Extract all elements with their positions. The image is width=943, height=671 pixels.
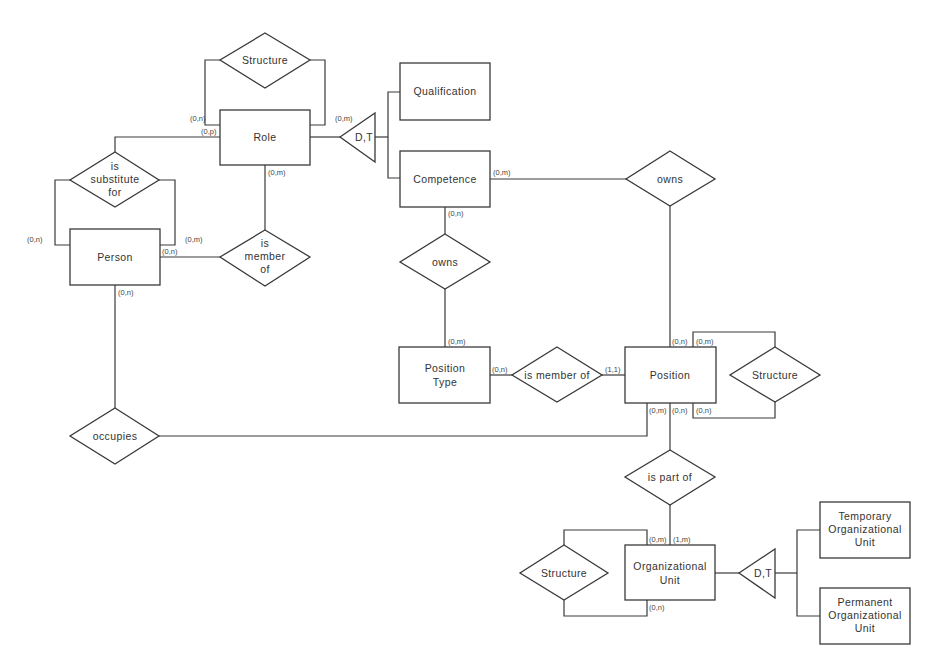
generalization-label: D,T (754, 567, 772, 579)
cardinality: (0,m) (649, 406, 667, 415)
relationship-label: owns (657, 173, 683, 185)
cardinality: (0,n) (448, 209, 464, 218)
relationship-owns-competence-position-type[interactable]: owns (400, 234, 490, 289)
entity-label: Temporary (838, 510, 892, 522)
relationship-label: of (260, 263, 270, 275)
entity-label: Organizational (828, 523, 901, 535)
entity-label: Permanent (838, 596, 893, 608)
cardinality: (0,m) (268, 168, 286, 177)
cardinality: (0,p) (201, 127, 217, 136)
relationship-occupies[interactable]: occupies (70, 408, 159, 464)
cardinality: (0,n) (190, 114, 206, 123)
entity-label: Role (253, 131, 276, 143)
cardinality: (0,m) (335, 114, 353, 123)
entity-role[interactable]: Role (220, 110, 310, 165)
entity-permanent-organizational-unit[interactable]: Permanent Organizational Unit (820, 588, 910, 644)
relationship-position-structure[interactable]: Structure (730, 347, 820, 402)
relationship-is-substitute-for[interactable]: is substitute for (70, 152, 159, 207)
cardinality: (0,n) (696, 406, 712, 415)
entity-label: Type (433, 376, 457, 388)
entity-label: Competence (413, 173, 477, 185)
generalization-label: D,T (355, 131, 373, 143)
entity-competence[interactable]: Competence (400, 151, 490, 207)
cardinality: (0,n) (492, 365, 508, 374)
entity-label: Organizational (633, 560, 706, 572)
relationship-owns-competence-position[interactable]: owns (626, 151, 715, 206)
entity-label: Unit (855, 622, 875, 634)
relationship-is-part-of[interactable]: is part of (625, 450, 715, 505)
relationship-label: member (245, 250, 286, 262)
cardinality: (0,n) (118, 288, 134, 297)
entity-label: Unit (855, 536, 875, 548)
entity-position[interactable]: Position (625, 347, 716, 403)
cardinality: (0,m) (649, 535, 667, 544)
relationship-label: for (108, 186, 122, 198)
cardinality: (1,m) (673, 535, 691, 544)
entity-label: Organizational (828, 609, 901, 621)
cardinality: (0,m) (185, 235, 203, 244)
relationship-label: is part of (648, 471, 692, 483)
entity-organizational-unit[interactable]: Organizational Unit (625, 545, 715, 600)
relationship-org-structure[interactable]: Structure (520, 545, 608, 600)
relationship-label: Structure (541, 567, 587, 579)
cardinality: (0,m) (448, 337, 466, 346)
entity-label: Unit (660, 574, 680, 586)
cardinality: (0,n) (649, 603, 665, 612)
cardinality: (0,n) (672, 406, 688, 415)
entity-position-type[interactable]: Position Type (399, 347, 490, 403)
relationship-label: is (261, 237, 269, 249)
relationship-role-structure[interactable]: Structure (220, 33, 310, 88)
relationship-is-member-of-position-type[interactable]: is member of (512, 347, 602, 402)
entity-label: Qualification (414, 85, 477, 97)
relationship-label: is member of (524, 369, 589, 381)
relationship-label: substitute (91, 173, 140, 185)
entity-label: Position (650, 369, 691, 381)
entity-label: Position (425, 362, 466, 374)
er-diagram: Role Qualification Competence Person Pos… (0, 0, 943, 671)
relationship-label: Structure (242, 54, 288, 66)
cardinality: (0,n) (27, 235, 43, 244)
relationship-label: Structure (752, 369, 798, 381)
entity-qualification[interactable]: Qualification (400, 63, 490, 120)
relationship-label: owns (432, 256, 458, 268)
generalization-org-unit[interactable]: D,T (739, 549, 775, 598)
cardinality: (0,n) (672, 337, 688, 346)
relationship-label: is (111, 160, 119, 172)
relationship-is-member-of-role[interactable]: is member of (220, 230, 310, 286)
entity-temporary-organizational-unit[interactable]: Temporary Organizational Unit (820, 502, 910, 558)
cardinality: (0,m) (696, 337, 714, 346)
cardinality: (0,m) (493, 168, 511, 177)
cardinality: (0,n) (162, 247, 178, 256)
relationship-label: occupies (93, 430, 138, 442)
entity-person[interactable]: Person (70, 229, 160, 285)
cardinality: (1,1) (605, 365, 621, 374)
entity-label: Person (97, 251, 133, 263)
